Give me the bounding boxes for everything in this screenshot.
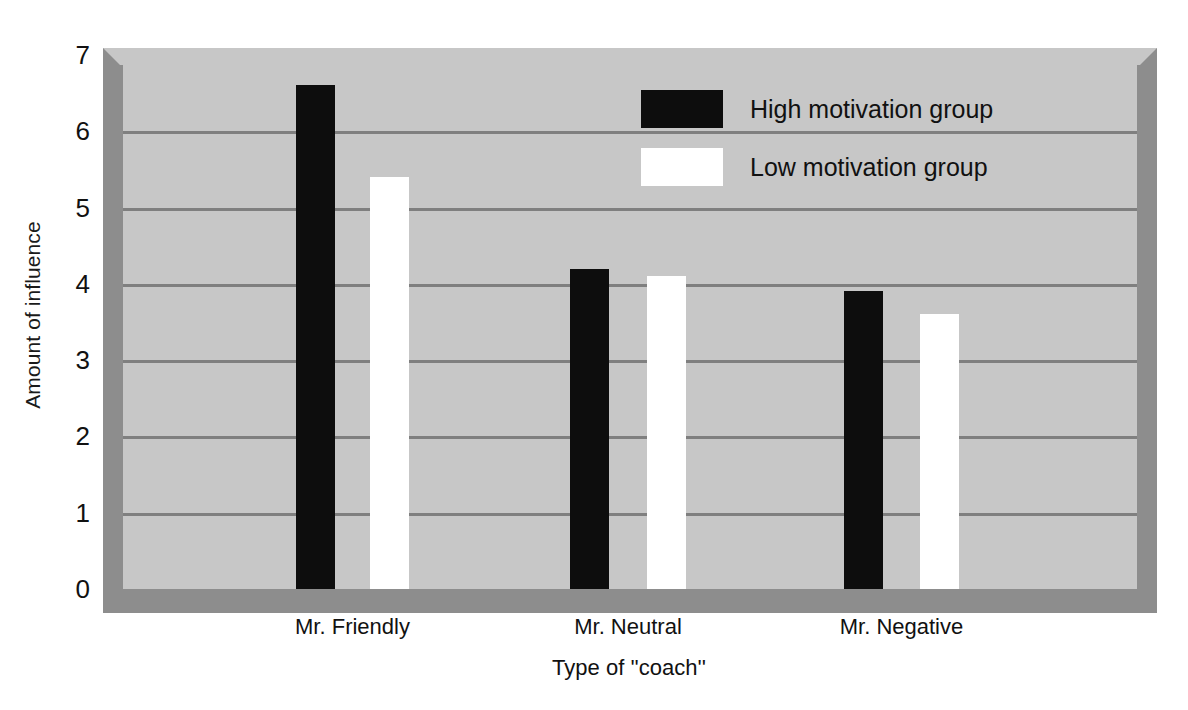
gridline [123,208,1137,211]
y-axis-tick-label: 3 [56,347,90,373]
y-axis-tick-label: 5 [56,195,90,221]
y-axis-tick-label: 7 [56,42,90,68]
bar-chart-figure: Amount of influence 01234567 High motiva… [0,0,1188,710]
y-axis-title: Amount of influence [21,221,45,409]
legend-label: High motivation group [750,95,993,124]
x-axis-tick-label: Mr. Negative [840,614,964,640]
y-axis-tick-label: 6 [56,118,90,144]
plot-plate-right-wall [1137,65,1157,613]
bar [920,314,959,589]
legend-label: Low motivation group [750,153,988,182]
y-axis-tick-label: 0 [56,576,90,602]
y-axis-tick-labels: 01234567 [50,0,90,710]
bar [844,291,883,589]
chart-legend: High motivation groupLow motivation grou… [641,80,993,196]
gridline [123,436,1137,439]
gridline [123,284,1137,287]
gridline [123,360,1137,363]
bar [296,85,335,589]
y-axis-tick-label: 1 [56,500,90,526]
bar [570,269,609,589]
x-axis-tick-label: Mr. Neutral [574,614,682,640]
bar [647,276,686,589]
y-axis-tick-label: 4 [56,271,90,297]
bar [370,177,409,589]
legend-swatch [641,148,723,186]
plot-plate-bottom-wall [103,589,1157,613]
x-axis-title: Type of ''coach'' [552,655,706,681]
legend-item: Low motivation group [641,138,993,196]
gridline [123,513,1137,516]
y-axis-tick-label: 2 [56,423,90,449]
plot-plate-left-wall [103,65,123,613]
x-axis-tick-label: Mr. Friendly [295,614,410,640]
legend-swatch [641,90,723,128]
legend-item: High motivation group [641,80,993,138]
